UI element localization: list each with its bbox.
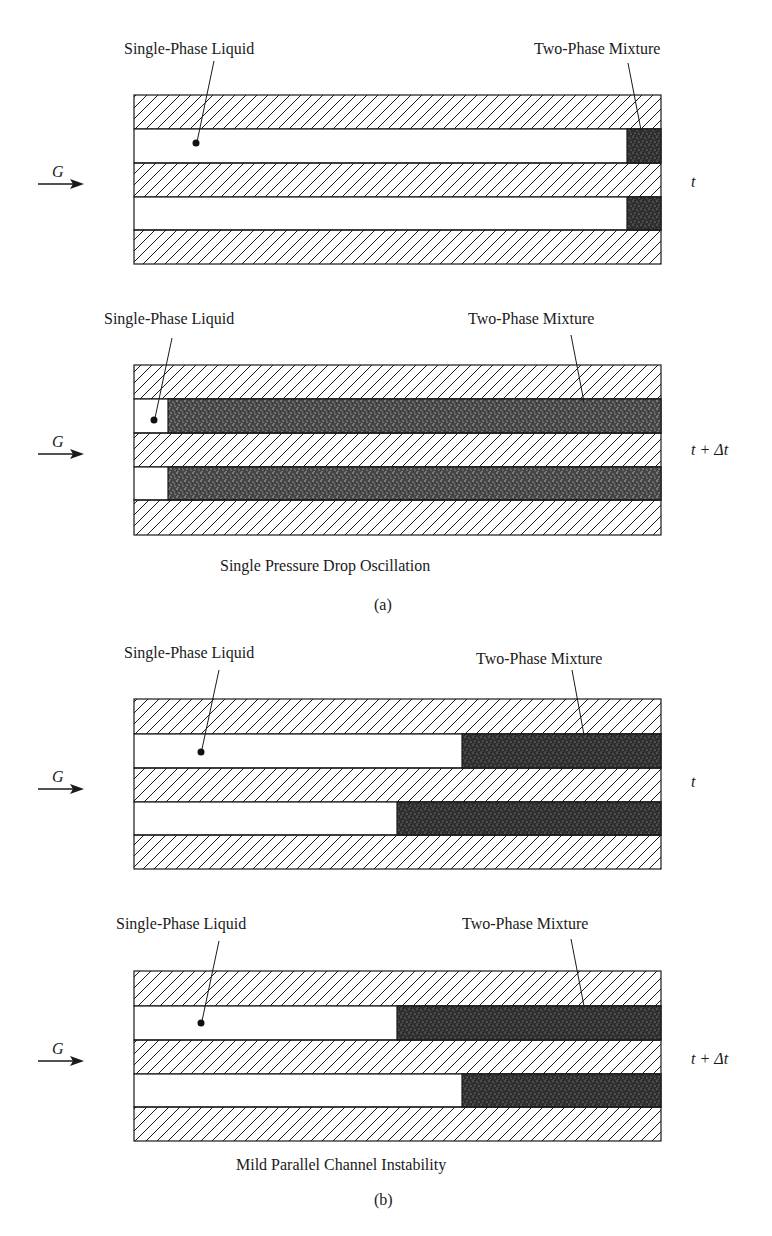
panel-b-state-t-dt [38, 939, 661, 1141]
leader-dot [193, 140, 200, 147]
flow-label-g: G [52, 1040, 64, 1058]
two-phase-region [462, 1074, 661, 1107]
channel-1 [134, 129, 661, 163]
two-phase-region [627, 129, 661, 163]
wall-hatched [134, 500, 661, 535]
label-single-phase-liquid: Single-Phase Liquid [116, 915, 246, 933]
wall-hatched [134, 768, 661, 802]
label-two-phase-mixture: Two-Phase Mixture [462, 915, 588, 933]
wall-hatched [134, 835, 661, 869]
leader-dot [198, 1020, 205, 1027]
two-phase-region [168, 399, 661, 433]
two-phase-region [168, 467, 661, 500]
panel-b-state-t [38, 670, 661, 869]
label-two-phase-mixture: Two-Phase Mixture [476, 650, 602, 668]
time-label: t [691, 173, 695, 191]
time-label: t [691, 773, 695, 791]
tag-panel-b: (b) [374, 1191, 393, 1209]
wall-hatched [134, 433, 661, 467]
label-single-phase-liquid: Single-Phase Liquid [124, 40, 254, 58]
flow-label-g: G [52, 163, 64, 181]
label-two-phase-mixture: Two-Phase Mixture [534, 40, 660, 58]
label-single-phase-liquid: Single-Phase Liquid [104, 310, 234, 328]
two-phase-region [397, 1006, 661, 1040]
two-phase-region [627, 197, 661, 230]
channel-2 [134, 197, 661, 230]
wall-hatched [134, 699, 661, 734]
panel-a-state-t [38, 61, 661, 264]
panel-a-state-t-dt [38, 335, 661, 535]
flow-label-g: G [52, 433, 64, 451]
wall-hatched [134, 1107, 661, 1141]
time-label: t + Δt [691, 1050, 728, 1068]
flow-label-g: G [52, 768, 64, 786]
wall-hatched [134, 1040, 661, 1074]
figure-canvas [0, 0, 772, 1236]
label-two-phase-mixture: Two-Phase Mixture [468, 310, 594, 328]
label-single-phase-liquid: Single-Phase Liquid [124, 644, 254, 662]
time-label: t + Δt [691, 441, 728, 459]
leader-dot [151, 417, 158, 424]
wall-hatched [134, 230, 661, 264]
wall-hatched [134, 163, 661, 197]
wall-hatched [134, 971, 661, 1006]
tag-panel-a: (a) [374, 596, 392, 614]
caption-panel-a: Single Pressure Drop Oscillation [220, 557, 430, 575]
leader-dot [198, 749, 205, 756]
two-phase-region [462, 734, 661, 768]
caption-panel-b: Mild Parallel Channel Instability [236, 1156, 446, 1174]
wall-hatched [134, 95, 661, 129]
two-phase-region [397, 802, 661, 835]
